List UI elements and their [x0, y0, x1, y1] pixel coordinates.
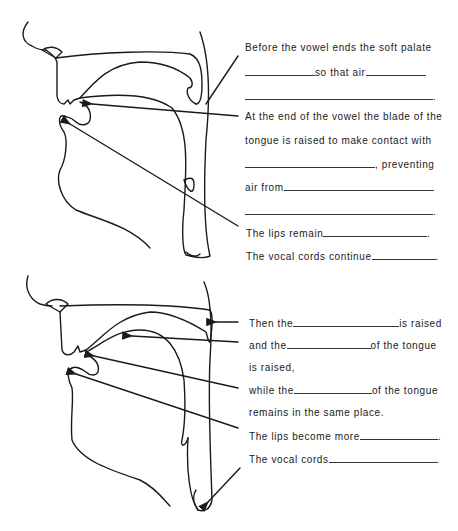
- answer-blank[interactable]: [287, 339, 371, 349]
- answer-blank[interactable]: [294, 384, 372, 394]
- label: The lips remain: [246, 228, 323, 239]
- arrow-lips: [70, 124, 238, 226]
- vocal-tract-diagrams: [0, 0, 458, 531]
- arrow-back-tongue: [132, 336, 238, 342]
- label: remains in the same place.: [249, 407, 384, 418]
- fill-line: so that air: [245, 66, 426, 79]
- answer-blank[interactable]: [372, 250, 436, 260]
- label: and the: [249, 340, 287, 351]
- label: .: [427, 228, 430, 239]
- label: .: [437, 454, 440, 465]
- label: .: [438, 431, 441, 442]
- bottom-sagittal-section: [27, 276, 213, 511]
- fill-line: air from: [245, 181, 434, 194]
- text-line: remains in the same place.: [249, 407, 384, 419]
- label: The vocal cords continue: [246, 251, 372, 262]
- fill-line: The vocal cords.: [249, 453, 440, 466]
- text-line: Before the vowel ends the soft palate: [245, 42, 432, 54]
- label: is raised,: [249, 362, 295, 373]
- text-line: is raised,: [249, 362, 295, 374]
- label: Before the vowel ends the soft palate: [245, 42, 432, 53]
- fill-line: The lips become more.: [249, 430, 441, 443]
- top-sagittal-section: [23, 22, 210, 258]
- fill-line: The lips remain.: [246, 227, 431, 240]
- answer-blank[interactable]: [284, 181, 434, 191]
- fill-line: while theof the tongue: [249, 384, 438, 397]
- arrow-vocal-cords: [208, 468, 240, 502]
- fill-line: and theof the tongue: [249, 339, 437, 352]
- label: , preventing: [375, 159, 434, 170]
- label: is raised: [399, 318, 442, 329]
- fill-line: , preventing: [245, 158, 434, 171]
- answer-blank[interactable]: [245, 90, 433, 100]
- label: of the tongue: [371, 340, 437, 351]
- label: .: [433, 91, 436, 102]
- fill-line: .: [245, 90, 436, 103]
- arrow-blade: [92, 104, 238, 116]
- answer-blank[interactable]: [366, 66, 426, 76]
- text-line: At the end of the vowel the blade of the: [245, 111, 442, 123]
- label: of the tongue: [372, 385, 438, 396]
- answer-blank[interactable]: [293, 317, 399, 327]
- answer-blank[interactable]: [323, 227, 427, 237]
- arrow-tip-tongue: [94, 356, 238, 388]
- answer-blank[interactable]: [245, 158, 375, 168]
- label: air from: [245, 182, 284, 193]
- label: tongue is raised to make contact with: [245, 135, 432, 146]
- fill-line: The vocal cords continue.: [246, 250, 439, 263]
- answer-blank[interactable]: [329, 453, 437, 463]
- label: Then the: [249, 318, 293, 329]
- answer-blank[interactable]: [360, 430, 438, 440]
- label: so that air: [315, 67, 366, 78]
- label: while the: [249, 385, 294, 396]
- label: At the end of the vowel the blade of the: [245, 111, 442, 122]
- fill-line: .: [245, 205, 436, 218]
- answer-blank[interactable]: [245, 66, 315, 76]
- label: The vocal cords: [249, 454, 329, 465]
- label: .: [433, 206, 436, 217]
- answer-blank[interactable]: [245, 205, 433, 215]
- text-line: tongue is raised to make contact with: [245, 135, 432, 147]
- label: The lips become more: [249, 431, 360, 442]
- leader-soft-palate: [206, 56, 238, 104]
- fill-line: Then theis raised: [249, 317, 442, 330]
- label: .: [436, 251, 439, 262]
